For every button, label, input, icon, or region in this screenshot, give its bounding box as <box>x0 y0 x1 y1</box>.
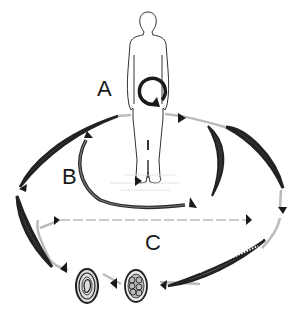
worm-outer-left-bottom <box>17 196 52 267</box>
life-cycle-diagram <box>0 0 294 309</box>
arrow-down-icon <box>278 207 287 214</box>
arrow-right-icon <box>178 113 186 123</box>
cycle-label-c: C <box>145 232 161 254</box>
egg-embryonated <box>76 269 98 303</box>
arrow-right-icon <box>246 214 252 225</box>
arrow-down-icon <box>189 197 197 208</box>
arrow-right-icon <box>54 216 60 225</box>
worm-inner-left-highlight <box>80 140 185 207</box>
worm-inner-right <box>208 126 223 196</box>
segmented-larva <box>168 240 265 286</box>
cycle-label-b: B <box>62 166 77 188</box>
circular-arrow-icon <box>139 78 165 107</box>
egg-morula <box>125 270 147 302</box>
arrow-right-icon <box>135 176 142 186</box>
worm-outer-right <box>226 127 283 188</box>
cycle-label-a: A <box>97 78 112 100</box>
